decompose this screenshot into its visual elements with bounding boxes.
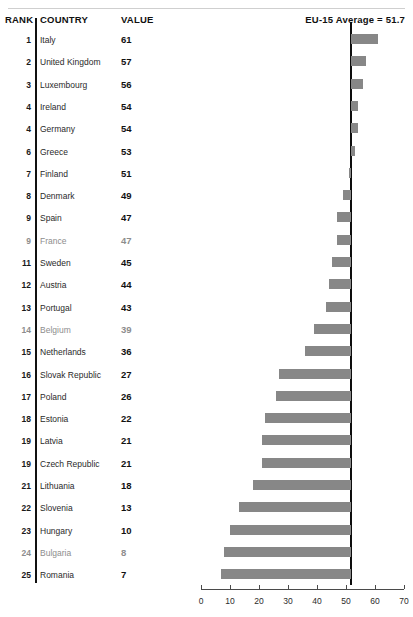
axis-tick: [375, 585, 376, 589]
table-row[interactable]: 13Portugal43: [0, 301, 200, 315]
row-country: Estonia: [40, 412, 68, 426]
row-rank: 19: [0, 434, 31, 448]
bar: [221, 569, 351, 579]
table-row[interactable]: 22Slovenia13: [0, 501, 200, 515]
row-value: 26: [121, 390, 132, 404]
axis-tick-label: 70: [399, 596, 408, 606]
bar: [351, 56, 366, 66]
table-row[interactable]: 19Czech Republic21: [0, 457, 200, 471]
table-row[interactable]: 8Denmark49: [0, 189, 200, 203]
row-rank: 16: [0, 368, 31, 382]
row-value: 39: [121, 323, 132, 337]
row-value: 21: [121, 457, 132, 471]
row-rank: 11: [0, 256, 31, 270]
bar: [314, 324, 351, 334]
table-row[interactable]: 2United Kingdom57: [0, 55, 200, 69]
row-country: Ireland: [40, 100, 66, 114]
row-value: 21: [121, 434, 132, 448]
row-country: Hungary: [40, 524, 72, 538]
row-value: 51: [121, 167, 132, 181]
row-rank: 23: [0, 524, 31, 538]
table-row[interactable]: 17Poland26: [0, 390, 200, 404]
bar: [351, 79, 363, 89]
table-row[interactable]: 7Finland51: [0, 167, 200, 181]
axis-tick: [259, 585, 260, 589]
table-row[interactable]: 25Romania7: [0, 568, 200, 582]
row-rank: 19: [0, 457, 31, 471]
row-country: Sweden: [40, 256, 71, 270]
table-row[interactable]: 9France47: [0, 234, 200, 248]
table-row[interactable]: 12Austria44: [0, 278, 200, 292]
table-row[interactable]: 14Belgium39: [0, 323, 200, 337]
row-country: United Kingdom: [40, 55, 100, 69]
table-row[interactable]: 24Bulgaria8: [0, 546, 200, 560]
row-country: Lithuania: [40, 479, 75, 493]
row-country: Belgium: [40, 323, 71, 337]
table-row[interactable]: 6Greece53: [0, 145, 200, 159]
row-rank: 24: [0, 546, 31, 560]
row-rank: 13: [0, 301, 31, 315]
row-rank: 6: [0, 145, 31, 159]
bar: [305, 346, 351, 356]
table-row[interactable]: 11Sweden45: [0, 256, 200, 270]
axis-tick: [404, 585, 405, 589]
table-row[interactable]: 1Italy61: [0, 33, 200, 47]
row-value: 43: [121, 301, 132, 315]
row-country: Denmark: [40, 189, 74, 203]
row-rank: 25: [0, 568, 31, 582]
row-country: France: [40, 234, 66, 248]
column-header-rank: RANK: [5, 14, 35, 25]
bar: [326, 302, 351, 312]
table-row[interactable]: 9Spain47: [0, 211, 200, 225]
bar: [351, 146, 355, 156]
row-value: 47: [121, 234, 132, 248]
row-value: 57: [121, 55, 132, 69]
row-country: Czech Republic: [40, 457, 100, 471]
bar: [224, 547, 351, 557]
bar: [279, 369, 351, 379]
row-value: 13: [121, 501, 132, 515]
row-value: 53: [121, 145, 132, 159]
average-annotation: EU-15 Average = 51.7: [305, 14, 405, 25]
table-row[interactable]: 23Hungary10: [0, 524, 200, 538]
axis-tick: [288, 585, 289, 589]
row-rank: 9: [0, 234, 31, 248]
row-rank: 4: [0, 122, 31, 136]
column-header-country: COUNTRY: [40, 14, 88, 25]
row-value: 36: [121, 345, 132, 359]
bar: [276, 391, 351, 401]
row-country: Poland: [40, 390, 66, 404]
axis-tick: [346, 585, 347, 589]
chart-page: RANK COUNTRY VALUE EU-15 Average = 51.7 …: [0, 0, 413, 617]
row-country: Spain: [40, 211, 62, 225]
row-country: Portugal: [40, 301, 72, 315]
table-row[interactable]: 19Latvia21: [0, 434, 200, 448]
axis-tick-label: 10: [225, 596, 234, 606]
row-rank: 7: [0, 167, 31, 181]
row-country: Netherlands: [40, 345, 86, 359]
row-rank: 1: [0, 33, 31, 47]
row-value: 44: [121, 278, 132, 292]
table-row[interactable]: 3Luxembourg56: [0, 78, 200, 92]
table-row[interactable]: 4Germany54: [0, 122, 200, 136]
axis-tick-label: 50: [341, 596, 350, 606]
row-country: Slovenia: [40, 501, 73, 515]
bar: [239, 502, 351, 512]
table-row[interactable]: 21Lithuania18: [0, 479, 200, 493]
row-value: 56: [121, 78, 132, 92]
bar: [337, 235, 351, 245]
column-header-value: VALUE: [121, 14, 154, 25]
row-rank: 9: [0, 211, 31, 225]
table-row[interactable]: 15Netherlands36: [0, 345, 200, 359]
axis-tick-label: 30: [283, 596, 292, 606]
axis-tick-label: 60: [370, 596, 379, 606]
row-value: 7: [121, 568, 126, 582]
axis-line: [201, 589, 404, 590]
row-country: Austria: [40, 278, 66, 292]
row-value: 54: [121, 122, 132, 136]
table-row[interactable]: 4Ireland54: [0, 100, 200, 114]
table-row[interactable]: 18Estonia22: [0, 412, 200, 426]
row-rank: 17: [0, 390, 31, 404]
axis-tick: [317, 585, 318, 589]
table-row[interactable]: 16Slovak Republic27: [0, 368, 200, 382]
